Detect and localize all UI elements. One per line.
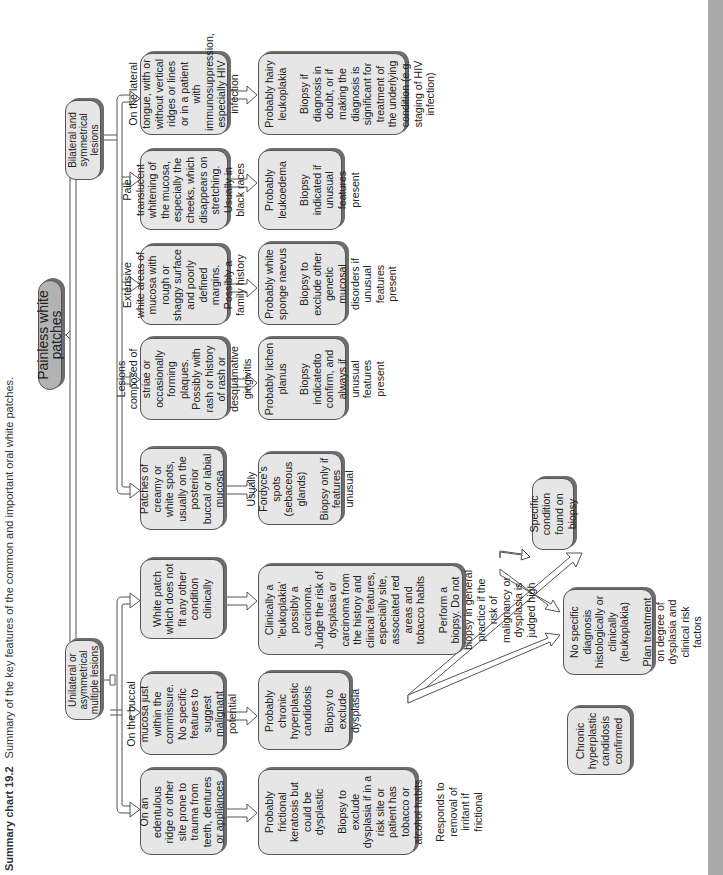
- feature-extensive: Extensive white areas of mucosa with rou…: [140, 245, 228, 325]
- outcome-leukoplakia: Clinically a 'leukoplakia' possibly a ca…: [258, 565, 463, 655]
- outcome-leukoedema: Probably leukoedema Biopsy indicated if …: [258, 150, 342, 230]
- feature-pale: Pale translucent whitening of the mucosa…: [140, 150, 228, 230]
- outcome-candidosis: Probably chronic hyperplastic candidosis…: [258, 672, 350, 750]
- outcome-fordyce: Usually Fordyce's spots (sebaceous gland…: [258, 453, 342, 525]
- feature-lateral-tongue: On the lateral tongue, with or without v…: [140, 53, 228, 135]
- rotated-page: Summary chart 19.2Summary of the key fea…: [0, 0, 723, 875]
- root-label: Painless white patches: [37, 284, 62, 386]
- result-chc-confirmed: Chronic hyperplastic candidosis confirme…: [567, 707, 631, 775]
- outcome-sponge: Probably white sponge naevus Biopsy to e…: [258, 243, 346, 325]
- root-node: Painless white patches: [38, 280, 62, 390]
- feature-creamy: Patches of creamy or white spots, usuall…: [140, 448, 224, 530]
- result-specific: Specific condition found on biopsy: [532, 478, 574, 550]
- branch-unilateral: Unilateral or asymmetrical multiple lesi…: [65, 640, 101, 720]
- branch-bilateral: Bilateral and symmetrical lesions: [65, 100, 101, 180]
- page-edge-band: [708, 0, 723, 875]
- outcome-lichen: Probably lichen planus Biopsy indicatedt…: [258, 338, 346, 420]
- feature-edentulous: On an edentulous ridge or other site pro…: [140, 769, 224, 855]
- feature-striae: Lesions composed of striae or occasional…: [140, 338, 228, 420]
- outcome-hairy: Probably hairy leukoplakia Biopsy if dia…: [258, 53, 406, 135]
- result-no-specific: No specific diagnosis histologically or …: [563, 589, 653, 675]
- feature-buccal: On the buccal mucosa just within the com…: [140, 673, 224, 755]
- outcome-frictional: Probably frictional keratosis but could …: [258, 769, 416, 855]
- feature-white-patch: White patch which does not fit any other…: [140, 559, 224, 639]
